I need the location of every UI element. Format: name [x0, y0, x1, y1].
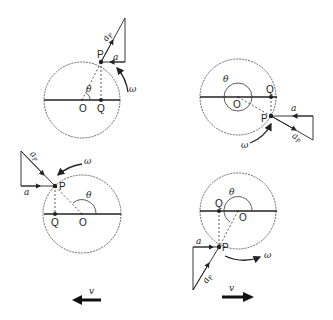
label-P: P — [222, 242, 229, 253]
label-O: O — [79, 217, 87, 228]
label-Q: Q — [215, 198, 223, 209]
label-v: v — [89, 286, 94, 296]
velocity-arrowhead-right — [243, 292, 254, 302]
point-O — [81, 213, 83, 215]
label-omega: ω — [129, 84, 137, 94]
label-O: O — [239, 212, 247, 223]
label-a: a — [291, 103, 296, 113]
label-O: O — [79, 103, 87, 114]
omega-arrow — [58, 164, 82, 175]
label-P: P — [59, 181, 66, 192]
point-O — [237, 96, 239, 98]
label-a: a — [196, 236, 201, 246]
label-a: a — [24, 187, 29, 197]
omega-arrow — [225, 256, 260, 260]
label-theta: θ — [229, 187, 235, 197]
label-omega: ω — [84, 156, 92, 166]
panel-bottom-left: P O Q θ a aP ω v — [21, 149, 121, 305]
point-P — [269, 114, 273, 118]
theta-arc — [86, 93, 90, 100]
label-theta: θ — [86, 84, 92, 94]
label-theta: θ — [86, 190, 92, 200]
theta-arc — [224, 197, 252, 222]
point-P — [99, 60, 103, 64]
point-Q — [217, 209, 221, 213]
panel-top-left: P O Q θ a aP ω — [44, 18, 137, 138]
label-aP: aP — [200, 271, 215, 285]
label-omega: ω — [264, 250, 272, 260]
label-Q: Q — [97, 103, 105, 114]
panel-top-right: P O Q θ a aP ω — [200, 59, 313, 150]
label-theta: θ — [223, 74, 229, 84]
panel-bottom-right: P O Q θ a aP ω v — [193, 173, 277, 302]
point-P — [53, 184, 57, 188]
label-omega: ω — [241, 140, 249, 150]
point-Q — [53, 212, 57, 216]
label-aP: aP — [27, 149, 42, 164]
aP-arrow — [271, 116, 296, 130]
point-O — [81, 99, 83, 101]
omega-arrow — [250, 124, 271, 143]
theta-arc — [73, 200, 96, 214]
velocity-arrowhead-left — [72, 295, 82, 305]
label-Q: Q — [266, 84, 274, 95]
radius-OP — [82, 62, 101, 100]
label-a: a — [113, 52, 118, 62]
label-aP: aP — [290, 130, 304, 145]
label-O: O — [233, 99, 241, 110]
omega-arrow — [117, 68, 128, 92]
label-P: P — [97, 49, 104, 60]
point-P — [217, 245, 221, 249]
label-Q: Q — [51, 217, 59, 228]
point-Q — [269, 95, 273, 99]
label-v: v — [229, 283, 234, 293]
label-P: P — [261, 113, 268, 124]
point-Q — [99, 98, 103, 102]
